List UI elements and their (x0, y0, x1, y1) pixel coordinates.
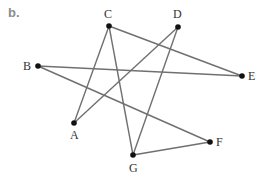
vertex-a (71, 120, 77, 126)
labels-layer: ABCDEFG (23, 7, 255, 175)
vertex-b (35, 63, 41, 69)
edge-c-a (74, 26, 109, 123)
vertices-layer (35, 23, 245, 158)
edge-d-g (133, 27, 178, 155)
graph-figure: b. ABCDEFG (0, 0, 267, 181)
vertex-e (239, 73, 245, 79)
vertex-label-d: D (173, 7, 182, 21)
edge-b-e (38, 66, 242, 76)
edge-d-a (74, 27, 178, 123)
vertex-label-a: A (70, 128, 79, 142)
vertex-d (175, 24, 181, 30)
vertex-f (207, 139, 213, 145)
graph-diagram: ABCDEFG (0, 0, 267, 181)
vertex-label-c: C (104, 7, 112, 21)
vertex-c (106, 23, 112, 29)
vertex-label-f: F (216, 135, 223, 149)
edge-g-f (133, 142, 210, 155)
vertex-label-b: B (23, 59, 31, 73)
vertex-label-e: E (248, 69, 255, 83)
edges-layer (38, 26, 242, 155)
edge-c-g (109, 26, 133, 155)
vertex-g (130, 152, 136, 158)
vertex-label-g: G (129, 161, 138, 175)
